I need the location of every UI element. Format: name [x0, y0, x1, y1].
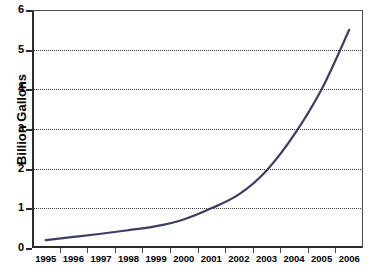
y-tick-label-3: 3 — [4, 122, 24, 134]
x-tick-mark-2004 — [280, 248, 281, 253]
y-tick-label-0: 0 — [4, 241, 24, 253]
y-tick-label-6: 6 — [4, 3, 24, 15]
y-tick-label-5: 5 — [4, 43, 24, 55]
y-axis-title: Billion Gallons — [14, 40, 29, 200]
y-tick-label-2: 2 — [4, 162, 24, 174]
x-tick-label-2006: 2006 — [332, 253, 366, 264]
y-tick-label-4: 4 — [4, 82, 24, 94]
x-tick-mark-2000 — [170, 248, 171, 253]
series-path-billion-gallons — [46, 30, 349, 240]
x-tick-mark-2003 — [253, 248, 254, 253]
x-tick-mark-2002 — [225, 248, 226, 253]
chart-container: Billion Gallons 6543210 1995199619971998… — [0, 0, 375, 271]
x-tick-mark-2006 — [335, 248, 336, 253]
x-tick-mark-2001 — [198, 248, 199, 253]
y-tick-label-1: 1 — [4, 201, 24, 213]
x-tick-mark-1997 — [87, 248, 88, 253]
x-tick-mark-1999 — [142, 248, 143, 253]
data-series-line — [32, 10, 363, 248]
x-tick-mark-1998 — [115, 248, 116, 253]
x-tick-mark-1996 — [60, 248, 61, 253]
y-tick-mark-0 — [26, 248, 32, 250]
x-tick-mark-2005 — [308, 248, 309, 253]
